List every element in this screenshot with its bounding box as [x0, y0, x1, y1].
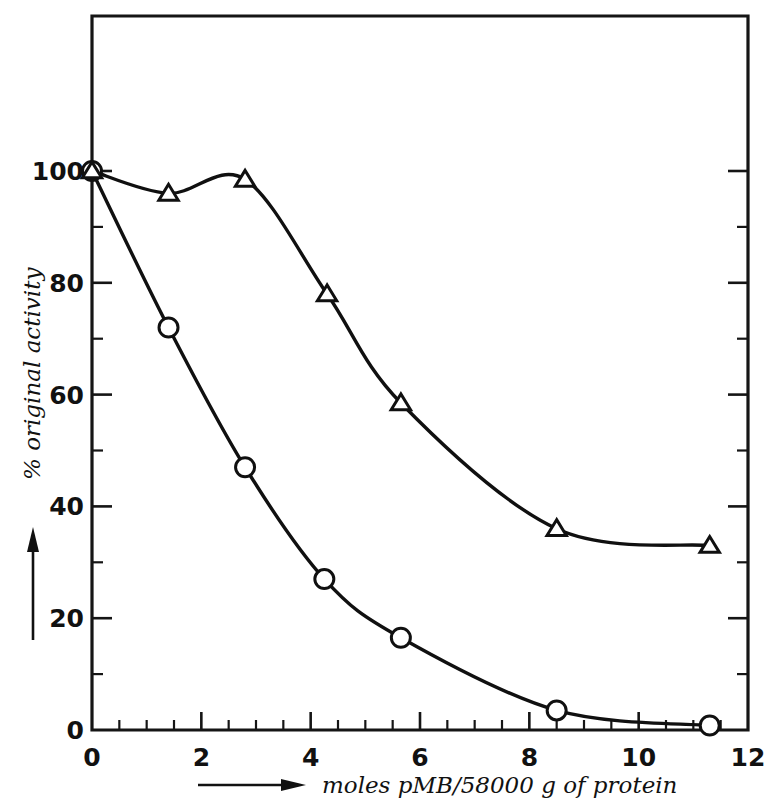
figure-container: 024681012 020406080100 % original activi… [0, 0, 774, 807]
x-tick-label: 10 [621, 743, 656, 772]
y-axis-title: % original activity [19, 267, 45, 480]
x-axis-title: moles pMB/58000 g of protein [322, 772, 677, 798]
marker-circle [159, 318, 178, 337]
y-tick-label: 100 [32, 157, 84, 186]
marker-triangle [547, 520, 566, 536]
y-tick-label: 80 [49, 269, 84, 298]
marker-circle [315, 570, 334, 589]
y-tick-label: 60 [49, 381, 84, 410]
x-tick-label: 12 [731, 743, 766, 772]
y-axis-title-group: % original activity [19, 267, 45, 640]
marker-circle [236, 458, 255, 477]
x-tick-label: 6 [411, 743, 428, 772]
data-markers [82, 162, 719, 736]
x-tick-label: 4 [302, 743, 319, 772]
y-tick-label: 40 [49, 492, 84, 521]
y-axis-ticks-right [728, 171, 748, 674]
y-axis-ticks [92, 171, 112, 674]
x-axis-title-group: moles pMB/58000 g of protein [198, 772, 677, 798]
x-tick-label: 8 [521, 743, 538, 772]
x-axis-tick-labels: 024681012 [83, 743, 765, 772]
x-tick-label: 2 [193, 743, 210, 772]
y-tick-label: 0 [67, 716, 84, 745]
x-axis-arrow-head [281, 779, 306, 791]
marker-triangle [235, 170, 254, 186]
marker-circle [700, 716, 719, 735]
marker-triangle [317, 285, 336, 301]
marker-circle [391, 628, 410, 647]
chart-svg: 024681012 020406080100 % original activi… [0, 0, 774, 807]
y-tick-label: 20 [49, 604, 84, 633]
y-axis-arrow-head [27, 527, 39, 552]
x-tick-label: 0 [83, 743, 100, 772]
marker-circle [547, 701, 566, 720]
